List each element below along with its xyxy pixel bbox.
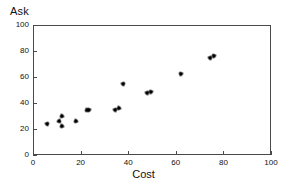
data-point <box>212 54 215 57</box>
data-point <box>74 120 77 123</box>
y-axis-tick-label: 100 <box>5 21 29 29</box>
y-axis-tick-label: 40 <box>5 99 29 107</box>
data-point <box>87 108 90 111</box>
data-point <box>60 125 63 128</box>
x-axis-tick-label: 100 <box>258 159 284 167</box>
x-axis-tick-label: 0 <box>20 159 46 167</box>
x-axis-tick-label: 80 <box>210 159 236 167</box>
data-point <box>58 120 61 123</box>
x-axis-tick-label: 20 <box>68 159 94 167</box>
x-axis-title: Cost <box>0 168 287 180</box>
y-axis-tick-label: 80 <box>5 47 29 55</box>
x-axis-tick-label: 60 <box>163 159 189 167</box>
data-point <box>46 122 49 125</box>
data-point <box>149 90 152 93</box>
x-axis-tick <box>271 151 272 155</box>
plot-area <box>33 25 271 155</box>
y-axis-tick-label: 20 <box>5 125 29 133</box>
y-axis-title: Ask <box>10 5 29 17</box>
y-axis-tick-label: 60 <box>5 73 29 81</box>
x-axis-tick-label: 40 <box>115 159 141 167</box>
data-point <box>60 115 63 118</box>
y-axis-tick-label: 0 <box>5 151 29 159</box>
y-axis-tick <box>33 155 37 156</box>
data-point <box>122 82 125 85</box>
data-point <box>117 107 120 110</box>
scatter-chart: Ask 020406080100 020406080100 Cost <box>0 0 287 184</box>
data-point <box>179 72 182 75</box>
